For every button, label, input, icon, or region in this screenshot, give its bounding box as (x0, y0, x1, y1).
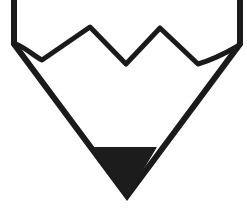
pencil-tip-icon (0, 0, 247, 215)
pencil-tip-illustration (0, 0, 247, 215)
